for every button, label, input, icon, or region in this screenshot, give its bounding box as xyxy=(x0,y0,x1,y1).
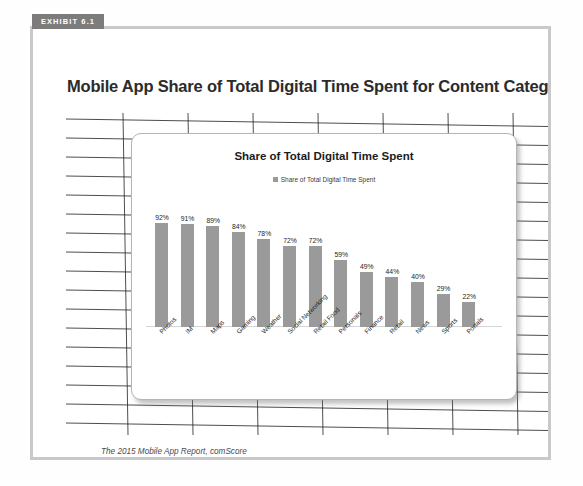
bar-finance[interactable] xyxy=(360,272,373,327)
bar-value-label: 72% xyxy=(278,237,302,244)
legend-label: Share of Total Digital Time Spent xyxy=(281,176,376,183)
bar-value-label: 91% xyxy=(176,215,200,222)
bar-value-label: 44% xyxy=(380,268,404,275)
bar-slot: 44% xyxy=(380,192,404,327)
bar-slot: 22% xyxy=(457,192,481,327)
category-axis-labels: PhotosIMMapsGamingWeatherSocial Networki… xyxy=(146,330,502,396)
bar-slot: 49% xyxy=(355,192,379,327)
bar-slot: 40% xyxy=(406,192,430,327)
bar-slot: 92% xyxy=(150,192,174,327)
bar-plot-area: 92%91%89%84%78%72%72%59%49%44%40%29%22% xyxy=(146,192,502,327)
legend-swatch-icon xyxy=(273,177,278,182)
bar-slot: 91% xyxy=(176,192,200,327)
bar-im[interactable] xyxy=(181,224,194,327)
bar-maps[interactable] xyxy=(206,226,219,327)
chart-legend: Share of Total Digital Time Spent xyxy=(132,176,516,183)
bar-slot: 89% xyxy=(201,192,225,327)
bar-gaming[interactable] xyxy=(232,232,245,327)
chart-card: Share of Total Digital Time Spent Share … xyxy=(131,133,517,400)
bar-value-label: 89% xyxy=(201,217,225,224)
bar-value-label: 78% xyxy=(252,230,276,237)
bar-slot: 78% xyxy=(252,192,276,327)
bar-value-label: 59% xyxy=(329,251,353,258)
exhibit-tab-label: EXHIBIT 6.1 xyxy=(32,14,104,29)
bar-value-label: 72% xyxy=(304,237,328,244)
bar-photos[interactable] xyxy=(155,223,168,327)
bar-slot: 59% xyxy=(329,192,353,327)
bar-value-label: 84% xyxy=(227,223,251,230)
exhibit-card: Mobile App Share of Total Digital Time S… xyxy=(30,26,551,460)
bar-value-label: 92% xyxy=(150,214,174,221)
bar-value-label: 22% xyxy=(457,293,481,300)
bar-slot: 84% xyxy=(227,192,251,327)
exhibit-title: Mobile App Share of Total Digital Time S… xyxy=(67,77,551,96)
bar-value-label: 40% xyxy=(406,273,430,280)
bar-slot: 72% xyxy=(278,192,302,327)
exhibit-page: EXHIBIT 6.1 xyxy=(0,0,583,486)
chart-title: Share of Total Digital Time Spent xyxy=(132,150,516,162)
bar-social-networking[interactable] xyxy=(283,246,296,327)
source-citation: The 2015 Mobile App Report, comScore htt… xyxy=(101,447,490,460)
bar-slot: 29% xyxy=(432,192,456,327)
source-title: The 2015 Mobile App Report, comScore xyxy=(101,447,490,456)
bar-value-label: 29% xyxy=(432,285,456,292)
bar-retail[interactable] xyxy=(385,277,398,327)
bar-weather[interactable] xyxy=(257,239,270,327)
bar-value-label: 49% xyxy=(355,263,379,270)
bar-personals[interactable] xyxy=(334,260,347,327)
